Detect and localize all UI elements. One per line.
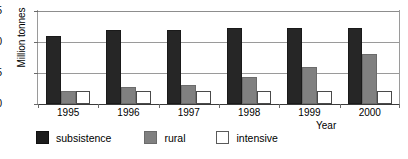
x-tick-label-2000: 2000 xyxy=(340,107,400,118)
bar-intensive-1996[interactable] xyxy=(136,91,151,104)
bar-rural-1997[interactable] xyxy=(181,85,196,104)
x-tick-label-1999: 1999 xyxy=(279,107,339,118)
x-tick-label-1996: 1996 xyxy=(98,107,158,118)
bar-rural-1996[interactable] xyxy=(121,87,136,104)
bar-groups xyxy=(38,11,400,104)
bar-group-bars xyxy=(159,11,219,104)
bar-intensive-2000[interactable] xyxy=(377,91,392,104)
bar-group xyxy=(159,11,219,104)
y-tick-label: 1.0 xyxy=(0,36,2,47)
bar-group xyxy=(219,11,279,104)
bar-group-bars xyxy=(279,11,339,104)
legend-item-rural[interactable]: rural xyxy=(144,131,185,144)
bar-intensive-1997[interactable] xyxy=(196,91,211,104)
chart-legend: subsistenceruralintensive xyxy=(36,131,278,144)
bar-subsistence-1997[interactable] xyxy=(167,30,182,104)
x-tick-label-1997: 1997 xyxy=(159,107,219,118)
bar-subsistence-2000[interactable] xyxy=(348,28,363,104)
legend-swatch-icon xyxy=(144,131,157,144)
bar-rural-2000[interactable] xyxy=(362,54,377,104)
y-tick-label: 1.5 xyxy=(0,5,2,16)
bar-subsistence-1998[interactable] xyxy=(227,28,242,104)
bar-subsistence-1995[interactable] xyxy=(46,36,61,104)
y-tick-label: 0.0 xyxy=(0,98,2,109)
x-tick-label-1995: 1995 xyxy=(38,107,98,118)
bar-group xyxy=(340,11,400,104)
chart-screenshot: Million tonnes 0.00.51.01.5 199519961997… xyxy=(0,0,408,159)
bar-group-bars xyxy=(38,11,98,104)
y-tick-label: 0.5 xyxy=(0,67,2,78)
x-tick-label-1998: 1998 xyxy=(219,107,279,118)
legend-label: intensive xyxy=(236,132,277,144)
bar-group-bars xyxy=(98,11,158,104)
legend-label: subsistence xyxy=(56,132,111,144)
x-axis-tick-labels: 199519961997199819992000 xyxy=(38,107,400,118)
bar-rural-1998[interactable] xyxy=(242,77,257,104)
bar-group xyxy=(279,11,339,104)
bar-intensive-1998[interactable] xyxy=(257,91,272,104)
legend-label: rural xyxy=(164,132,185,144)
bar-group-bars xyxy=(219,11,279,104)
x-axis-title: Year xyxy=(316,120,336,131)
bar-group xyxy=(38,11,98,104)
bar-group xyxy=(98,11,158,104)
plot-area xyxy=(38,11,400,104)
bar-subsistence-1996[interactable] xyxy=(106,30,121,104)
y-axis-title: Million tonnes xyxy=(16,0,27,86)
legend-item-intensive[interactable]: intensive xyxy=(216,131,277,144)
legend-swatch-icon xyxy=(216,131,229,144)
bar-rural-1995[interactable] xyxy=(61,91,76,104)
bar-group-bars xyxy=(340,11,400,104)
legend-item-subsistence[interactable]: subsistence xyxy=(36,131,111,144)
bar-intensive-1999[interactable] xyxy=(317,91,332,104)
bar-rural-1999[interactable] xyxy=(302,67,317,104)
legend-swatch-icon xyxy=(36,131,49,144)
bar-subsistence-1999[interactable] xyxy=(287,28,302,104)
bar-intensive-1995[interactable] xyxy=(76,91,91,104)
